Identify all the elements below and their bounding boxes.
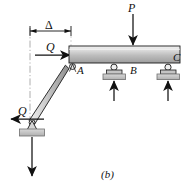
beam [69,46,180,63]
pin-connection-A [70,64,76,72]
label-point-C: C [173,52,180,63]
inclined-strut [29,65,69,124]
roller-support-C [157,64,180,80]
label-load-P: P [128,2,135,14]
diagram-svg [0,0,192,186]
label-force-Q-lower: Q [18,105,27,117]
pin-support-base [20,120,45,136]
roller-support-B [103,64,126,80]
label-point-B: B [130,65,137,76]
figure-caption: (b) [101,168,114,180]
label-point-A: A [77,65,84,76]
label-dimension-delta: Δ [45,19,53,31]
figure-canvas: P Q Q Δ A B C (b) [0,0,192,186]
label-force-Q-upper: Q [46,41,55,53]
